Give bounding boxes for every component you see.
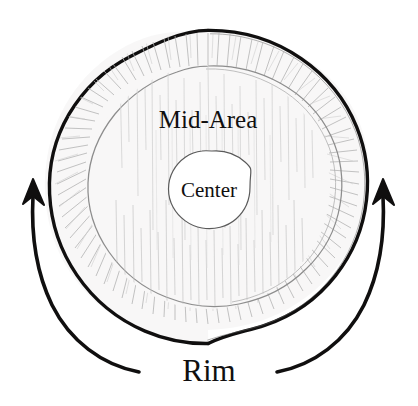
concentric-circles-diagram: Mid-Area Center Rim xyxy=(0,0,418,406)
center-label: Center xyxy=(181,178,237,202)
mid-area-label: Mid-Area xyxy=(159,106,258,133)
diagram-canvas: Mid-Area Center Rim xyxy=(0,0,418,406)
rim-label: Rim xyxy=(182,353,235,388)
